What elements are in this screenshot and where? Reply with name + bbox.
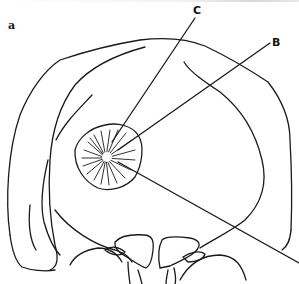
left-inner-line	[29, 205, 36, 250]
bottom-right-arc	[180, 255, 246, 280]
anatomical-diagram: a C B	[0, 0, 299, 284]
label-c: C	[193, 5, 201, 16]
bottom-left-stem-2	[138, 270, 142, 284]
outer-contour-bottom-right	[282, 230, 291, 250]
bottom-left-stem	[128, 262, 130, 284]
bottom-right-stem-2	[174, 268, 176, 284]
lower-left-curve-2	[70, 248, 122, 265]
leader-line-b	[118, 43, 270, 150]
bottom-right-stem	[166, 270, 168, 284]
leader-line-bottom-right	[118, 162, 299, 263]
leader-line-c	[112, 18, 195, 142]
panel-label: a	[8, 20, 15, 31]
label-b: B	[272, 37, 280, 48]
inner-left-arc	[49, 47, 145, 270]
inner-right-arc	[184, 62, 264, 248]
diagram-drawing	[0, 0, 299, 284]
circle-center	[102, 152, 112, 162]
left-channel	[42, 160, 60, 255]
